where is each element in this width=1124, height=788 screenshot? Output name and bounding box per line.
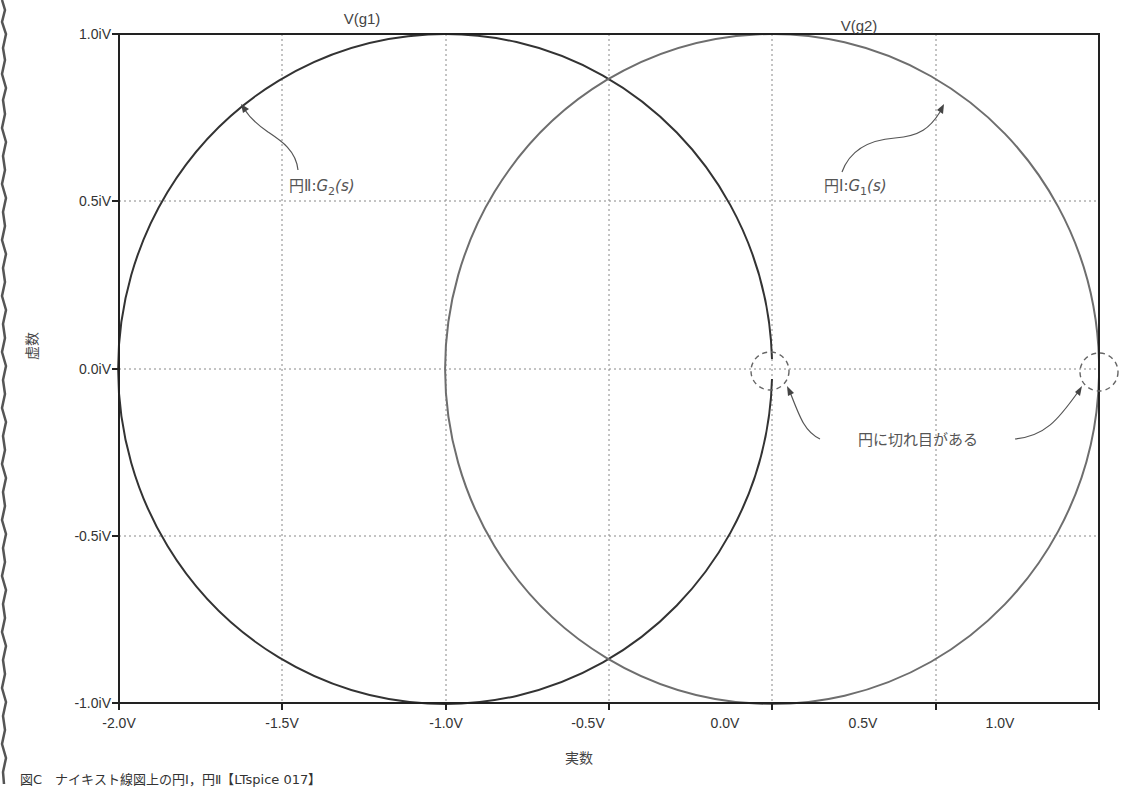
gap-marker-circle2 xyxy=(751,352,789,390)
annot-gap-text: 円に切れ目がある xyxy=(858,431,978,449)
x-tick-label: -0.5V xyxy=(571,715,605,731)
figure-caption: 図C ナイキスト線図上の円Ⅰ，円Ⅱ【LTspice 017】 xyxy=(20,769,321,788)
svg-text:円Ⅱ:G2(s): 円Ⅱ:G2(s) xyxy=(289,177,355,198)
x-tick-label: 0.5V xyxy=(849,715,878,731)
arrowhead-icon xyxy=(241,104,249,113)
y-axis-title: 虚数 xyxy=(24,332,40,360)
y-tick-label: 1.0iV xyxy=(79,26,112,42)
annotation-circle1: 円Ⅰ:G1(s) xyxy=(824,104,944,198)
x-tick-label: -2.0V xyxy=(102,715,136,731)
y-tick-label: 0.0iV xyxy=(79,361,112,377)
x-tick-label: 0.0V xyxy=(711,715,740,731)
x-axis xyxy=(119,703,1099,710)
annotation-gap: 円に切れ目がある xyxy=(787,386,1082,449)
x-tick-label: -1.5V xyxy=(265,715,299,731)
legend-v-g2: V(g2) xyxy=(841,17,878,34)
annot-circle2-prefix: 円Ⅱ: xyxy=(289,177,316,195)
y-tick-labels: 1.0iV 0.5iV 0.0iV -0.5iV -1.0iV xyxy=(74,26,111,711)
annot-circle1-prefix: 円Ⅰ: xyxy=(824,177,848,195)
x-tick-label: 1.0V xyxy=(986,715,1015,731)
y-tick-label: -0.5iV xyxy=(74,528,111,544)
legend-v-g1: V(g1) xyxy=(344,10,381,27)
x-axis-title: 実数 xyxy=(565,750,593,766)
annotation-circle2: 円Ⅱ:G2(s) xyxy=(241,104,355,198)
x-tick-labels: -2.0V -1.5V -1.0V -0.5V 0.0V 0.5V 1.0V xyxy=(102,715,1015,731)
grid xyxy=(119,34,1099,703)
arrowhead-icon xyxy=(937,104,944,114)
svg-text:円Ⅰ:G1(s): 円Ⅰ:G1(s) xyxy=(824,177,887,198)
y-tick-label: -1.0iV xyxy=(74,695,111,711)
y-axis xyxy=(112,34,119,703)
y-tick-label: 0.5iV xyxy=(79,193,112,209)
x-tick-label: -1.0V xyxy=(429,715,463,731)
arrowhead-icon xyxy=(787,386,794,396)
